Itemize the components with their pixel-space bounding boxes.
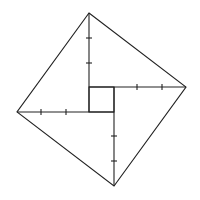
triangle-legs bbox=[17, 13, 186, 186]
outer-square bbox=[17, 13, 186, 186]
inner-square bbox=[89, 87, 114, 112]
pythagorean-pinwheel-diagram bbox=[0, 0, 200, 200]
